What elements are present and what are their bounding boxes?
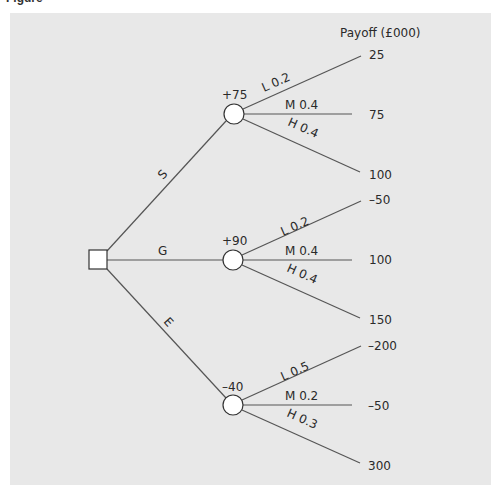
outcome-label: L 0.2 xyxy=(260,70,293,95)
outcome-label: M 0.4 xyxy=(285,244,318,258)
payoff-value: 100 xyxy=(369,253,392,267)
payoff-value: 150 xyxy=(369,313,392,327)
branch-g-label: G xyxy=(158,244,167,258)
decision-node-square xyxy=(89,250,107,269)
branch-e-label: E xyxy=(161,314,176,329)
outcome-label: H 0.4 xyxy=(285,261,320,287)
payoff-header: Payoff (£000) xyxy=(340,26,420,40)
emv-e: –40 xyxy=(222,380,243,394)
outcome-label: M 0.2 xyxy=(285,389,318,403)
outcome-label: L 0.5 xyxy=(279,359,312,384)
outcome-label: H 0.3 xyxy=(285,406,320,432)
payoff-value: –50 xyxy=(368,399,389,413)
outcome-label: M 0.4 xyxy=(285,98,318,112)
emv-s: +75 xyxy=(222,88,247,102)
decision-tree: Payoff (£000) S G E +75 +90 –40 L 0.2 M … xyxy=(0,0,501,500)
payoff-value: –50 xyxy=(369,193,390,207)
branch-s-label: S xyxy=(155,167,170,182)
payoff-value: 75 xyxy=(369,108,384,122)
payoff-value: –200 xyxy=(368,339,397,353)
outcome-label: H 0.4 xyxy=(286,115,321,141)
chance-node-g xyxy=(223,250,243,270)
branch-s-line xyxy=(107,121,226,251)
branch-e-line xyxy=(107,269,226,398)
chance-node-e xyxy=(223,395,243,415)
chance-node-s xyxy=(224,104,244,124)
payoff-value: 100 xyxy=(369,168,392,182)
payoff-value: 300 xyxy=(368,459,391,473)
payoff-value: 25 xyxy=(369,48,384,62)
outcome-label: L 0.2 xyxy=(279,214,312,239)
emv-g: +90 xyxy=(222,234,247,248)
